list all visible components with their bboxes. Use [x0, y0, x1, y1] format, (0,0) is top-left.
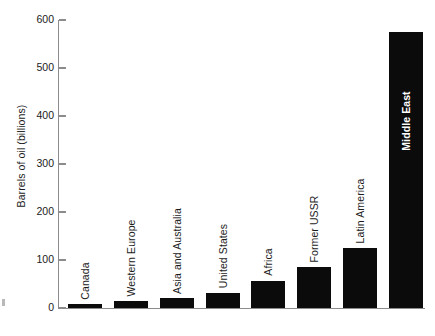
bar-chart-figure: Barrels of oil (billions) 01002003004005…: [0, 0, 435, 336]
bar-rect[interactable]: [160, 298, 194, 308]
y-axis-title: Barrels of oil (billions): [15, 61, 27, 251]
bar-rect[interactable]: [389, 32, 423, 308]
bar-rect[interactable]: [251, 281, 285, 308]
y-axis-tick-label: 300: [36, 157, 54, 169]
page-edge-artifact: [2, 299, 5, 306]
bar-group[interactable]: Latin America: [343, 20, 377, 308]
y-axis-tick-label: 600: [36, 13, 54, 25]
bar-group[interactable]: Asia and Australia: [160, 20, 194, 308]
bar-group[interactable]: Former USSR: [297, 20, 331, 308]
bar-rect[interactable]: [206, 293, 240, 308]
bar-group[interactable]: United States: [206, 20, 240, 308]
y-axis-tick-label: 200: [36, 205, 54, 217]
plot-area: CanadaWestern EuropeAsia and AustraliaUn…: [58, 20, 425, 308]
bar-group[interactable]: Canada: [68, 20, 102, 308]
x-axis-line: [58, 308, 425, 309]
y-axis-tick-label: 0: [48, 301, 54, 313]
bar-group[interactable]: Western Europe: [114, 20, 148, 308]
bar-group[interactable]: Middle East: [389, 20, 423, 308]
bar-group[interactable]: Africa: [251, 20, 285, 308]
y-axis-tick-label: 100: [36, 253, 54, 265]
bar-rect[interactable]: [297, 267, 331, 308]
bar-rect[interactable]: [68, 304, 102, 308]
bar-rect[interactable]: [114, 301, 148, 308]
bar-rect[interactable]: [343, 248, 377, 308]
y-axis-tick-label: 400: [36, 109, 54, 121]
y-axis-tick-label: 500: [36, 61, 54, 73]
